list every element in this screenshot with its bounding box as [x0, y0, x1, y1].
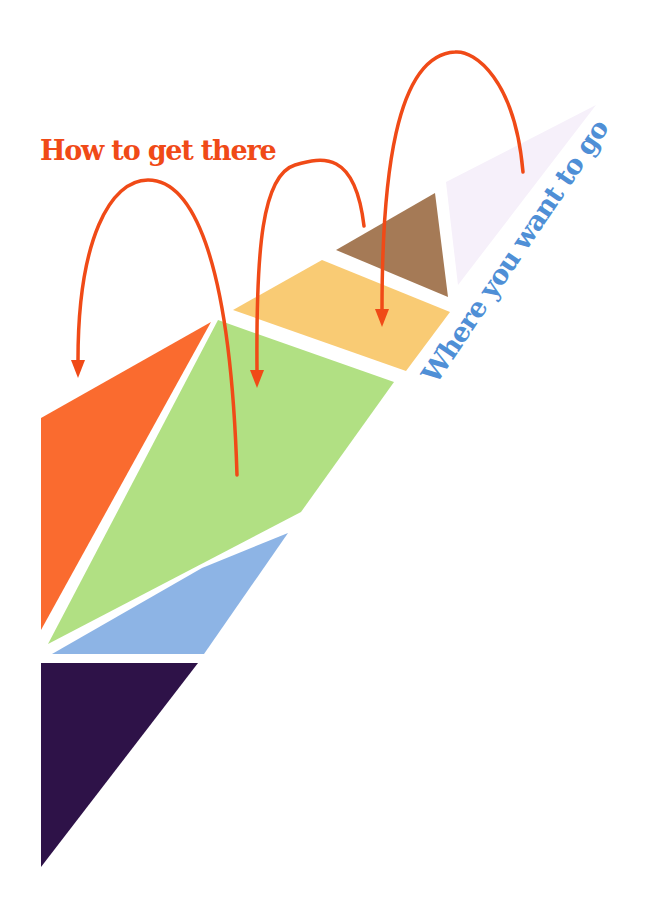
tangram-diagram: How to get there Where you want to go [0, 0, 671, 910]
arrowhead-icon [71, 360, 85, 378]
dark-purple-triangle [41, 663, 198, 867]
tangram-pieces [41, 105, 596, 867]
how-to-get-there-label: How to get there [40, 135, 275, 166]
